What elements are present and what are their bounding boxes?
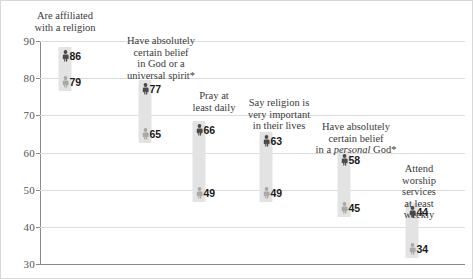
value-label-high: 77 xyxy=(150,84,162,95)
person-icon-high xyxy=(341,154,348,166)
y-tick-mark-70 xyxy=(36,115,40,116)
gridline-60 xyxy=(40,153,465,154)
person-icon-high xyxy=(142,83,149,95)
category-label: Say religion is very important in their … xyxy=(248,97,310,132)
category-label: Have absolutely certain belief in a pers… xyxy=(316,121,397,156)
y-tick-label-50: 50 xyxy=(1,184,35,196)
person-icon-low xyxy=(409,243,416,255)
person-icon-low xyxy=(142,128,149,140)
value-label-low: 34 xyxy=(417,244,429,255)
y-tick-mark-80 xyxy=(36,78,40,79)
gridline-90 xyxy=(40,41,465,42)
gridline-30 xyxy=(40,264,465,265)
y-tick-label-90: 90 xyxy=(1,35,35,47)
y-tick-mark-50 xyxy=(36,190,40,191)
person-icon-low xyxy=(196,187,203,199)
category-label: Have absolutely certain belief in God or… xyxy=(127,35,195,81)
y-tick-mark-90 xyxy=(36,41,40,42)
person-icon-high xyxy=(62,50,69,62)
value-label-low: 49 xyxy=(271,188,283,199)
category-label: Are affiliated with a religion xyxy=(34,10,95,33)
y-tick-label-60: 60 xyxy=(1,147,35,159)
y-tick-label-70: 70 xyxy=(1,109,35,121)
y-tick-label-40: 40 xyxy=(1,221,35,233)
person-icon-low xyxy=(263,187,270,199)
person-icon-low xyxy=(62,76,69,88)
value-label-high: 66 xyxy=(204,125,216,136)
gridline-80 xyxy=(40,78,465,79)
emphasis-word: personal xyxy=(334,144,371,155)
chart-container: 867977656649634958454434 30405060708090 … xyxy=(0,0,473,279)
value-label-low: 45 xyxy=(349,203,361,214)
y-tick-mark-30 xyxy=(36,264,40,265)
person-icon-high xyxy=(263,135,270,147)
y-tick-mark-40 xyxy=(36,227,40,228)
gridline-40 xyxy=(40,227,465,228)
plot-area: 867977656649634958454434 xyxy=(40,41,465,264)
value-label-high: 86 xyxy=(70,51,82,62)
category-label: Attend worship services at least weekly xyxy=(393,163,446,221)
value-label-low: 65 xyxy=(150,129,162,140)
value-label-high: 63 xyxy=(271,136,283,147)
person-icon-high xyxy=(196,124,203,136)
y-tick-label-80: 80 xyxy=(1,72,35,84)
value-label-high: 58 xyxy=(349,155,361,166)
value-label-low: 79 xyxy=(70,77,82,88)
y-tick-label-30: 30 xyxy=(1,258,35,270)
category-label: Pray at least daily xyxy=(193,90,236,113)
y-tick-mark-60 xyxy=(36,153,40,154)
person-icon-low xyxy=(341,202,348,214)
value-label-low: 49 xyxy=(204,188,216,199)
